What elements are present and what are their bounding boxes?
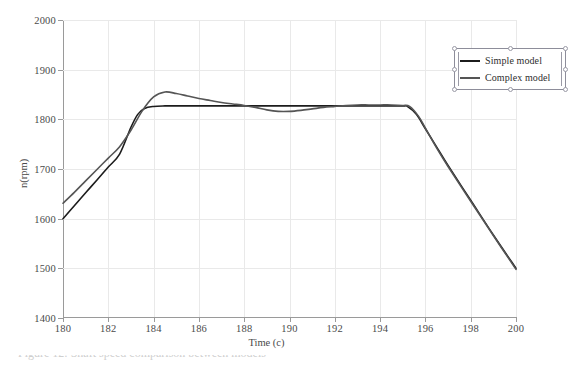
x-axis-tick [516, 317, 517, 322]
legend-swatch-complex-model [460, 77, 480, 79]
selection-handle-middle-left[interactable] [452, 67, 457, 72]
y-axis-tick-label: 1900 [34, 64, 56, 75]
x-axis-tick-label: 200 [508, 323, 524, 334]
x-axis-tick-label: 194 [372, 323, 388, 334]
selection-handle-top-left[interactable] [452, 46, 457, 51]
selection-handle-bottom-left[interactable] [452, 87, 457, 92]
legend-label-complex-model: Complex model [485, 72, 550, 83]
y-axis-tick-label: 1400 [34, 313, 56, 324]
selection-handle-bottom-middle[interactable] [508, 87, 513, 92]
x-axis-tick-label: 186 [191, 323, 207, 334]
plot-area: 1400150016001700180019002000180182184186… [63, 20, 516, 318]
x-axis-tick-label: 184 [145, 323, 161, 334]
series-line-complex-model [63, 92, 516, 269]
legend-item-simple-model[interactable]: Simple model [460, 52, 561, 69]
x-axis-tick-label: 188 [236, 323, 252, 334]
selection-handle-middle-right[interactable] [563, 67, 568, 72]
x-axis-title: Time (c) [0, 337, 533, 348]
selection-handle-bottom-right[interactable] [563, 87, 568, 92]
x-axis-tick-label: 196 [417, 323, 433, 334]
x-axis-tick-label: 192 [327, 323, 343, 334]
legend-label-simple-model: Simple model [485, 55, 542, 66]
selection-handle-top-right[interactable] [563, 46, 568, 51]
figure-caption-text: Figure 12: Shaft speed comparison betwee… [18, 355, 266, 361]
y-axis-tick-label: 2000 [34, 15, 56, 26]
series-plot [63, 20, 516, 318]
y-axis-tick-label: 1600 [34, 213, 56, 224]
y-axis-title: n(rpm) [18, 159, 29, 188]
y-axis-tick-label: 1800 [34, 114, 56, 125]
figure-caption-clipped: Figure 12: Shaft speed comparison betwee… [18, 355, 438, 369]
y-axis-tick-label: 1500 [34, 263, 56, 274]
y-axis-tick-label: 1700 [34, 164, 56, 175]
x-axis-tick-label: 198 [463, 323, 479, 334]
x-axis-tick-label: 182 [100, 323, 116, 334]
selection-handle-top-middle[interactable] [508, 46, 513, 51]
chart-legend[interactable]: Simple model Complex model [454, 48, 566, 90]
legend-item-complex-model[interactable]: Complex model [460, 69, 561, 86]
x-axis-tick-label: 180 [55, 323, 71, 334]
x-axis-tick-label: 190 [281, 323, 297, 334]
legend-swatch-simple-model [460, 60, 480, 62]
